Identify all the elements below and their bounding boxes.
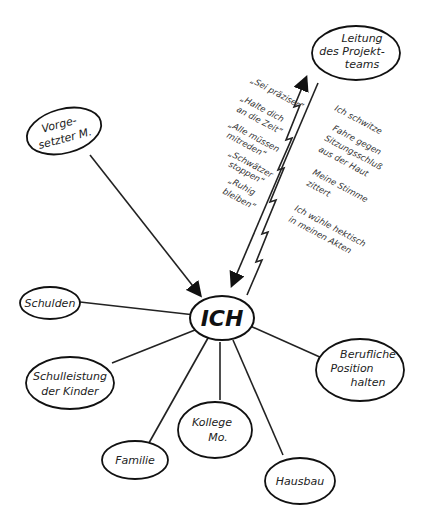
svg-text:teams: teams (345, 58, 380, 71)
svg-text:ICH: ICH (201, 306, 244, 331)
svg-text:Kollege: Kollege (192, 416, 232, 429)
svg-text:Mo.: Mo. (208, 431, 228, 444)
center-node-ich[interactable]: ICH (190, 296, 254, 340)
node-position[interactable]: Berufliche Position halten (316, 339, 404, 401)
svg-text:Schulden: Schulden (25, 297, 76, 310)
node-vorgesetzter[interactable]: Vorge- setzter M. (22, 100, 107, 162)
svg-text:Position: Position (330, 362, 373, 375)
stress-mindmap: ICH Leitung des Projekt- teams Vorge- se… (0, 0, 426, 532)
svg-text:der Kinder: der Kinder (41, 385, 100, 398)
demands-annotations: „Sei präziser“ „Halte dich an die Zeit“ … (221, 75, 306, 212)
node-kollege[interactable]: Kollege Mo. (178, 402, 252, 458)
node-schulleistung[interactable]: Schulleistung der Kinder (26, 357, 114, 409)
svg-text:Hausbau: Hausbau (276, 475, 324, 488)
svg-text:Leitung: Leitung (341, 32, 382, 45)
svg-text:halten: halten (351, 376, 386, 389)
svg-text:Berufliche: Berufliche (340, 348, 396, 361)
svg-text:Familie: Familie (115, 454, 155, 467)
svg-text:Schulleistung: Schulleistung (33, 370, 107, 383)
node-familie[interactable]: Familie (102, 441, 168, 479)
edge-schulleistung (112, 330, 195, 363)
edge-schulden (80, 302, 195, 315)
node-hausbau[interactable]: Hausbau (265, 458, 335, 504)
edge-position (248, 325, 322, 358)
reactions-annotations: Ich schwitze Fahre gegen Sitzungsschluß … (287, 103, 385, 256)
svg-text:des Projekt-: des Projekt- (319, 45, 384, 58)
node-schulden[interactable]: Schulden (20, 287, 80, 319)
node-leitung[interactable]: Leitung des Projekt- teams (312, 26, 400, 80)
edge-vorgesetzter (90, 155, 200, 295)
